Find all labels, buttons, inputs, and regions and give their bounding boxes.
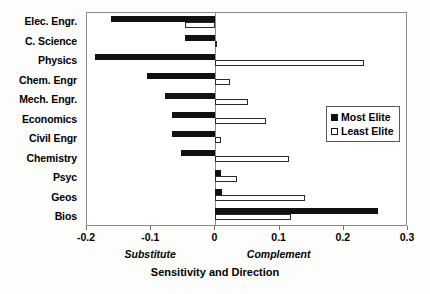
bar-row	[87, 93, 406, 107]
bar-most-elite	[147, 73, 216, 79]
category-label: Bios	[55, 211, 80, 222]
category-label: Chem. Engr	[19, 75, 80, 86]
bar-row	[87, 35, 406, 49]
bar-least-elite	[215, 156, 289, 162]
bar-least-elite	[215, 99, 248, 105]
bar-least-elite	[215, 41, 217, 47]
bar-least-elite	[215, 176, 237, 182]
bar-most-elite	[172, 112, 215, 118]
category-label: Elec. Engr.	[24, 16, 80, 27]
chart-legend: Most EliteLeast Elite	[326, 106, 400, 142]
x-tick-label: 0.1	[271, 231, 286, 243]
legend-label: Most Elite	[341, 110, 391, 124]
category-axis: Elec. Engr.C. SciencePhysicsChem. EngrMe…	[0, 12, 80, 226]
legend-item: Most Elite	[331, 110, 394, 124]
category-label: Geos	[51, 192, 80, 203]
category-label: Economics	[22, 114, 80, 125]
category-label: Psyc	[53, 172, 80, 183]
legend-swatch-filled	[331, 114, 338, 121]
bar-least-elite	[185, 22, 215, 28]
bar-most-elite	[172, 131, 215, 137]
category-label: C. Science	[25, 36, 80, 47]
axis-annotation: Complement	[247, 248, 311, 260]
bar-row	[87, 170, 406, 184]
bar-most-elite	[165, 93, 216, 99]
x-tick	[279, 226, 280, 230]
category-label: Mech. Engr.	[19, 94, 80, 105]
legend-label: Least Elite	[341, 124, 394, 138]
legend-swatch-hollow	[331, 128, 338, 135]
bar-row	[87, 54, 406, 68]
category-label: Civil Engr	[29, 133, 80, 144]
bar-row	[87, 189, 406, 203]
bar-least-elite	[215, 195, 304, 201]
bar-most-elite	[181, 150, 215, 156]
axis-annotation: Substitute	[125, 248, 176, 260]
x-tick-label: -0.1	[141, 231, 159, 243]
x-tick	[407, 226, 408, 230]
x-tick	[343, 226, 344, 230]
bar-row	[87, 73, 406, 87]
bar-least-elite	[215, 79, 230, 85]
category-label: Chemistry	[27, 153, 80, 164]
bar-least-elite	[215, 118, 266, 124]
x-tick-label: -0.2	[77, 231, 95, 243]
chart-figure: Elec. Engr.C. SciencePhysicsChem. EngrMe…	[0, 0, 430, 294]
x-tick	[150, 226, 151, 230]
bar-least-elite	[215, 60, 364, 66]
category-label: Physics	[38, 55, 80, 66]
bar-least-elite	[215, 214, 290, 220]
x-tick-label: 0.3	[400, 231, 415, 243]
bar-row	[87, 150, 406, 164]
bar-row	[87, 16, 406, 30]
x-tick-label: 0.2	[335, 231, 350, 243]
x-axis-tick-labels: -0.2-0.100.10.20.3	[0, 231, 430, 245]
x-tick	[214, 226, 215, 230]
bar-most-elite	[95, 54, 215, 60]
bar-least-elite	[215, 137, 221, 143]
x-axis-title: Sensitivity and Direction	[0, 266, 430, 278]
x-tick	[86, 226, 87, 230]
legend-item: Least Elite	[331, 124, 394, 138]
x-tick-label: 0	[211, 231, 217, 243]
bar-most-elite	[185, 35, 215, 41]
bar-row	[87, 208, 406, 222]
